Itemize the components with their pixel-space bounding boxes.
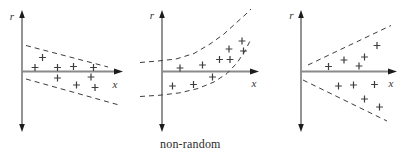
scatter-plots-canvas: rxrxrx [0,0,412,156]
data-point-plus [240,48,247,55]
y-axis-label: r [289,9,294,21]
data-point-plus [350,82,357,89]
lower-dashed-curve [140,39,251,97]
data-point-plus [199,62,206,69]
data-point-plus [356,63,363,70]
data-point-plus [341,57,348,64]
data-point-plus [361,96,368,103]
data-point-plus [39,54,46,61]
data-point-plus [227,56,234,63]
data-point-plus [177,65,184,72]
x-axis-label: x [251,77,257,89]
data-point-plus [54,75,61,82]
upper-dashed-line [26,46,108,68]
x-axis-arrowhead-icon [388,69,397,75]
data-point-plus [90,64,97,71]
data-point-plus [70,63,77,70]
x-axis-label: x [112,78,118,90]
y-axis-bottom-arrowhead-icon [159,124,165,132]
y-axis-label: r [150,9,155,21]
lower-dashed-line [26,79,119,105]
y-axis-top-arrowhead-icon [19,10,25,18]
y-axis-top-arrowhead-icon [298,10,304,18]
data-point-plus [226,46,233,53]
data-point-plus [325,63,332,70]
x-axis-label: x [388,77,394,89]
figure-caption: non-random [160,137,221,152]
data-point-plus [169,83,176,90]
data-point-plus [335,83,342,90]
x-axis-arrowhead-icon [114,69,123,75]
data-point-plus [239,38,246,45]
data-point-plus [361,54,368,61]
data-point-plus [209,74,216,81]
data-point-plus [32,64,39,71]
upper-dashed-curve [140,9,251,63]
data-point-plus [88,74,95,81]
plot-3-increasing-spread-fan: rx [289,9,397,132]
x-axis-arrowhead-icon [250,69,259,75]
data-point-plus [190,81,197,88]
data-point-plus [216,56,223,63]
y-axis-bottom-arrowhead-icon [19,124,25,132]
y-axis-bottom-arrowhead-icon [298,124,304,132]
plot-1-decreasing-linear-band: rx [10,10,123,133]
data-point-plus [374,42,381,49]
data-point-plus [92,84,99,91]
y-axis-top-arrowhead-icon [159,10,165,18]
data-point-plus [371,81,378,88]
plot-2-curved-band: rx [140,9,259,132]
data-point-plus [73,82,80,89]
y-axis-label: r [10,10,15,22]
data-point-plus [376,104,383,111]
data-point-plus [54,64,61,71]
residual-plots-figure: rxrxrx non-random [0,0,412,156]
